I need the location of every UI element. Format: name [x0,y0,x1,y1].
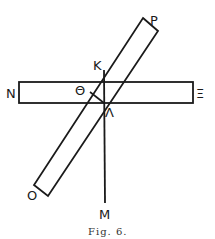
figure-6-diagram: P K N Θ Ξ Λ O M Fig. 6. [0,0,215,239]
label-p: P [150,13,158,28]
figure-caption: Fig. 6. [88,226,127,237]
vertical-line-km [104,70,105,203]
label-n: N [6,86,16,101]
label-m: M [99,207,110,222]
diagonal-bar [34,18,158,196]
diagram-svg: P K N Θ Ξ Λ O M Fig. 6. [0,0,215,239]
label-o: O [27,188,37,203]
label-k: K [93,58,102,73]
label-lambda: Λ [105,105,114,120]
label-theta: Θ [75,83,85,98]
horizontal-bar [19,82,193,103]
label-xi: Ξ [196,86,204,101]
